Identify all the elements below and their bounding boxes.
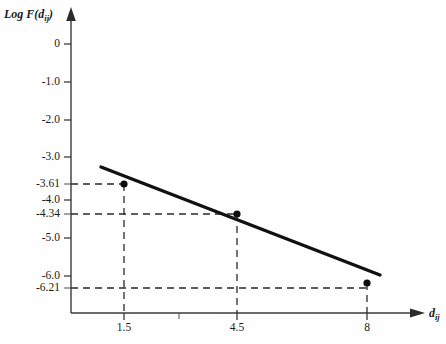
y-axis-arrow-icon [66, 7, 76, 21]
y-tick-label-3: -3.0 [42, 150, 60, 162]
data-point-2 [363, 279, 370, 286]
y-axis-title-close: ) [48, 7, 53, 21]
y-tick-label-1: -1.0 [42, 75, 60, 87]
fitted-trend-line [101, 167, 380, 275]
data-point-1 [233, 210, 240, 217]
data-point-0 [120, 180, 127, 187]
x-axis-title-subscript: ij [435, 312, 440, 322]
y-tick-label-7: -5.0 [42, 231, 60, 243]
x-tick-label-2: 8 [364, 321, 370, 333]
x-tick-label-0: 1.5 [117, 321, 132, 333]
y-tick-label-0: 0 [54, 37, 60, 49]
y-tick-label-2: -2.0 [42, 113, 60, 125]
x-axis-arrow-icon [410, 308, 425, 317]
y-axis-title: Log F(dij) [3, 7, 53, 23]
x-axis-title: dij [429, 306, 440, 322]
chart-figure: Log F(dij) dij 0 -1.0 -2.0 -3.0 -3.61 -4… [0, 0, 446, 344]
y-tick-label-5: -4.0 [42, 193, 60, 205]
y-tick-label-6: -4.34 [36, 207, 60, 219]
chart-svg: Log F(dij) dij 0 -1.0 -2.0 -3.0 -3.61 -4… [0, 0, 446, 344]
y-tick-label-4: -3.61 [36, 177, 60, 189]
x-tick-label-1: 4.5 [230, 321, 245, 333]
y-tick-label-8: -6.0 [42, 269, 60, 281]
y-axis-title-main: Log F(d [3, 7, 45, 21]
y-tick-label-9: -6.21 [36, 281, 60, 293]
